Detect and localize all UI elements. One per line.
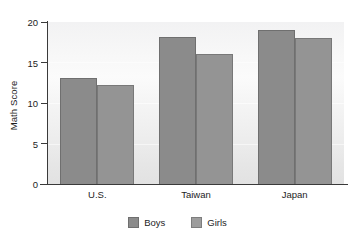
y-tick-mark — [41, 22, 47, 23]
y-tick-label: 0 — [14, 179, 38, 190]
x-category-label: Japan — [282, 189, 308, 200]
chart-legend: BoysGirls — [0, 217, 355, 228]
x-axis-line — [40, 184, 348, 185]
x-category-label: U.S. — [88, 189, 106, 200]
legend-swatch-boys-icon — [128, 217, 139, 228]
cropped-title-remnant — [62, 0, 192, 5]
bar-girls-us — [97, 85, 134, 184]
bar-boys-us — [60, 78, 97, 184]
y-axis-line — [47, 21, 48, 185]
legend-label: Girls — [207, 217, 227, 228]
x-category-label: Taiwan — [181, 189, 211, 200]
legend-label: Boys — [144, 217, 165, 228]
y-tick-mark — [41, 184, 47, 185]
bar-girls-japan — [295, 38, 332, 184]
plot-panel — [48, 22, 344, 184]
y-tick-label: 5 — [14, 138, 38, 149]
bar-boys-japan — [258, 30, 295, 184]
math-score-bar-chart: Math Score 05101520 U.S.TaiwanJapan Boys… — [0, 0, 355, 247]
bar-girls-taiwan — [196, 54, 233, 184]
bar-boys-taiwan — [159, 37, 196, 184]
y-tick-mark — [41, 62, 47, 63]
legend-item-boys[interactable]: Boys — [128, 217, 165, 228]
legend-item-girls[interactable]: Girls — [191, 217, 227, 228]
y-tick-mark — [41, 103, 47, 104]
legend-swatch-girls-icon — [191, 217, 202, 228]
y-tick-label: 10 — [14, 98, 38, 109]
y-tick-label: 20 — [14, 17, 38, 28]
y-tick-label: 15 — [14, 57, 38, 68]
y-tick-mark — [41, 143, 47, 144]
